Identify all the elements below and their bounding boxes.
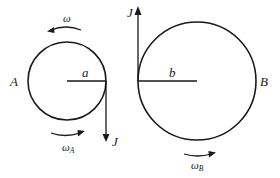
disk-b-omega-final-subscript: B (199, 164, 204, 173)
arrow-up-icon (135, 6, 142, 15)
disk-a-label: A (9, 74, 18, 89)
two-disk-impulse-diagram: a A J ω ωA b B J (0, 0, 280, 178)
disk-a-omega-initial-arrow (47, 27, 81, 33)
disk-a-omega-initial-label: ω (63, 12, 71, 24)
disk-a-group: a A J ω ωA (9, 12, 119, 155)
disk-b-group: b B J ωB (127, 5, 268, 173)
disk-a-radius-label: a (82, 65, 89, 80)
disk-b-omega-final-label: ωB (191, 159, 204, 173)
disk-b-radius-label: b (169, 65, 176, 80)
disk-b-omega-final-arrow (184, 151, 216, 158)
arrow-down-icon (103, 134, 110, 142)
disk-a-omega-final-label: ωA (62, 141, 75, 155)
arrow-right-icon (209, 151, 217, 158)
disk-b-impulse-arrow (135, 6, 142, 81)
disk-a-impulse-arrow (103, 81, 110, 142)
disk-b-label: B (260, 74, 268, 89)
arrow-right-icon (78, 130, 86, 137)
disk-b-impulse-label: J (127, 5, 134, 20)
disk-a-omega-final-arrow (51, 130, 85, 137)
disk-a-impulse-label: J (112, 134, 119, 149)
arrow-left-icon (47, 27, 55, 33)
disk-a-omega-final-subscript: A (69, 146, 75, 155)
